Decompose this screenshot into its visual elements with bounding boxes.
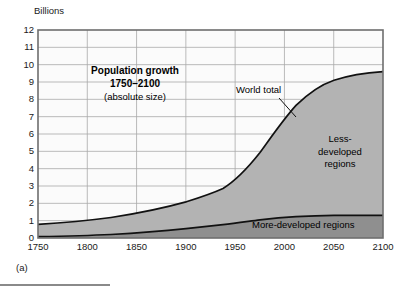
panel-label: (a) — [16, 262, 28, 273]
more-developed-regions-label: More-developed regions — [252, 219, 354, 230]
less-developed-label-line-3: regions — [300, 158, 380, 171]
x-tick-label: 1800 — [67, 242, 107, 252]
chart-title-line-3: (absolute size) — [72, 90, 198, 103]
x-tick-label: 1850 — [117, 242, 157, 252]
less-developed-regions-label: Less- developed regions — [300, 133, 380, 171]
x-tick-label: 1750 — [18, 242, 58, 252]
x-tick-label: 1950 — [215, 242, 255, 252]
y-tick-label: 8 — [8, 94, 34, 104]
y-tick-label: 7 — [8, 112, 34, 122]
bottom-divider — [0, 284, 110, 286]
x-tick-label: 2000 — [264, 242, 304, 252]
y-tick-label: 5 — [8, 146, 34, 156]
chart-title-line-2: 1750–2100 — [72, 77, 198, 90]
y-tick-label: 4 — [8, 164, 34, 174]
less-developed-label-line-2: developed — [300, 146, 380, 159]
x-tick-label: 1900 — [166, 242, 206, 252]
y-tick-label: 12 — [8, 25, 34, 35]
y-tick-label: 10 — [8, 60, 34, 70]
y-tick-label: 1 — [8, 216, 34, 226]
y-tick-label: 9 — [8, 77, 34, 87]
y-tick-label: 11 — [8, 42, 34, 52]
x-tick-label: 2100 — [363, 242, 403, 252]
world-total-label: World total — [236, 84, 281, 95]
x-tick-label: 2050 — [314, 242, 354, 252]
y-tick-label: 3 — [8, 181, 34, 191]
population-growth-figure: Billions — [0, 0, 416, 292]
y-tick-label: 6 — [8, 129, 34, 139]
chart-title-block: Population growth 1750–2100 (absolute si… — [72, 64, 198, 103]
less-developed-label-line-1: Less- — [300, 133, 380, 146]
chart-title-line-1: Population growth — [72, 64, 198, 77]
y-tick-label: 2 — [8, 198, 34, 208]
